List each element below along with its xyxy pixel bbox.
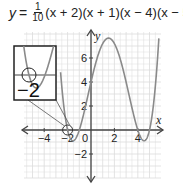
svg-text:−2: −2 — [74, 148, 87, 160]
svg-text:y: y — [94, 29, 101, 43]
svg-text:−4: −4 — [38, 132, 51, 144]
svg-text:6: 6 — [81, 52, 87, 64]
inset-label: −2 — [17, 79, 40, 101]
inset-magnifier: −2 — [14, 0, 56, 101]
polynomial-graph: yx −4−2024642−2 −2 — [0, 0, 183, 190]
function-curve — [61, 38, 159, 141]
svg-text:−2: −2 — [61, 132, 74, 144]
svg-text:x: x — [155, 113, 162, 127]
svg-text:0: 0 — [82, 132, 88, 144]
svg-text:4: 4 — [81, 76, 87, 88]
svg-text:2: 2 — [111, 132, 117, 144]
